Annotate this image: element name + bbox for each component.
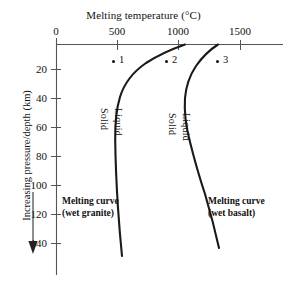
sample-point-2-label: 2 (172, 54, 177, 65)
granite-curve-caption: Melting curve (wet granite) (62, 196, 119, 219)
basalt-liquid-label: Liquid (181, 113, 192, 141)
melting-curve-figure: Melting temperature (°C) 0 500 1000 1500… (0, 0, 287, 287)
granite-caption-line1: Melting curve (62, 196, 119, 206)
basalt-caption-line2: (wet basalt) (208, 208, 265, 220)
basalt-curve-caption: Melting curve (wet basalt) (208, 196, 265, 219)
basalt-solid-label: Solid (167, 113, 178, 135)
increasing-pressure-arrow (28, 192, 37, 254)
granite-melting-curve (115, 45, 185, 257)
sample-point-1-label: 1 (119, 54, 124, 65)
granite-solid-label: Solid (99, 108, 110, 130)
sample-point-3-label: 3 (223, 54, 228, 65)
basalt-caption-line1: Melting curve (208, 196, 265, 206)
granite-caption-line2: (wet granite) (62, 208, 119, 220)
plot-canvas (0, 0, 287, 287)
granite-liquid-label: Liquid (113, 108, 124, 136)
